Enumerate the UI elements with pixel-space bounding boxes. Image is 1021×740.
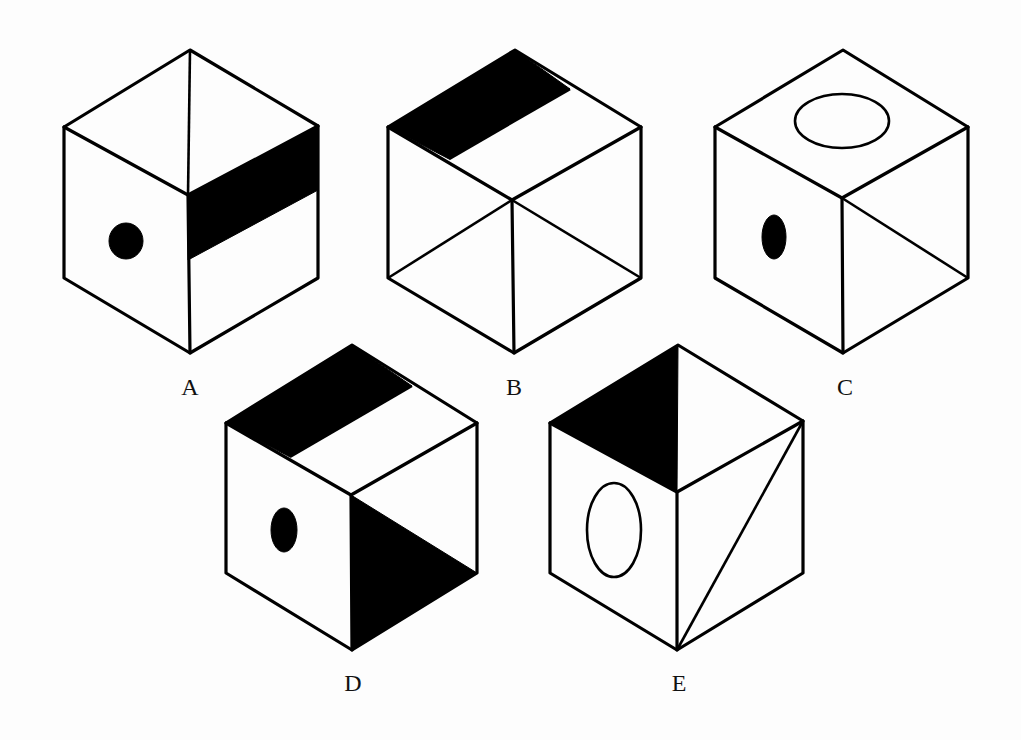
cube-puzzle-figure: [0, 0, 1021, 740]
label-a: A: [181, 374, 198, 401]
cube-e-top-triangle: [550, 345, 678, 492]
cube-c-top-ellipse: [795, 94, 889, 148]
cube-d-oval: [271, 508, 297, 552]
cube-a-circle: [109, 223, 143, 259]
label-e: E: [672, 670, 687, 697]
label-d: D: [344, 670, 361, 697]
cube-c: [715, 50, 968, 353]
cube-d: [226, 345, 477, 650]
cube-b: [388, 50, 641, 353]
cube-a: [64, 50, 318, 353]
cube-a-right-band: [188, 126, 318, 260]
label-b: B: [506, 374, 522, 401]
cube-e: [550, 345, 803, 650]
cube-e-ellipse: [587, 483, 641, 577]
cube-d-right-triangle: [351, 495, 477, 650]
label-c: C: [837, 374, 853, 401]
cube-c-oval: [762, 215, 786, 259]
